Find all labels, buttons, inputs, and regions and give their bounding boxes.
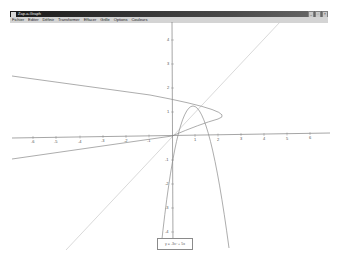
graph-canvas[interactable]: -6 -5 -4 -3 -2 -1 1 2 3 4 5 6 4 3 2 1 -1… — [0, 0, 338, 264]
svg-text:2: 2 — [167, 85, 170, 90]
svg-text:6: 6 — [309, 135, 312, 140]
svg-text:-6: -6 — [31, 139, 35, 144]
svg-text:-1: -1 — [147, 138, 151, 143]
x-axis — [12, 133, 330, 138]
svg-text:1: 1 — [194, 137, 197, 142]
svg-text:5: 5 — [286, 136, 289, 141]
svg-text:-1: -1 — [165, 157, 169, 162]
svg-text:-5: -5 — [54, 139, 58, 144]
svg-text:4: 4 — [167, 37, 170, 42]
parabola-curve — [161, 106, 229, 248]
svg-text:2: 2 — [217, 137, 220, 142]
svg-text:-4: -4 — [78, 139, 82, 144]
svg-text:3: 3 — [240, 136, 243, 141]
svg-text:1: 1 — [167, 109, 170, 114]
svg-text:4: 4 — [263, 136, 266, 141]
equation-label[interactable]: y = -3x² + 5x — [157, 238, 193, 250]
svg-text:3: 3 — [167, 61, 170, 66]
svg-text:-4: -4 — [165, 229, 169, 234]
svg-text:-3: -3 — [101, 138, 105, 143]
